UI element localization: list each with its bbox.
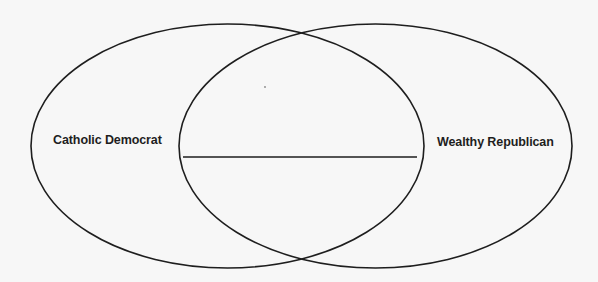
scan-noise-dot	[264, 86, 266, 88]
right-set-label: Wealthy Republican	[437, 135, 554, 149]
left-set-label: Catholic Democrat	[53, 133, 162, 147]
venn-diagram-canvas: Catholic Democrat Wealthy Republican	[0, 0, 598, 282]
